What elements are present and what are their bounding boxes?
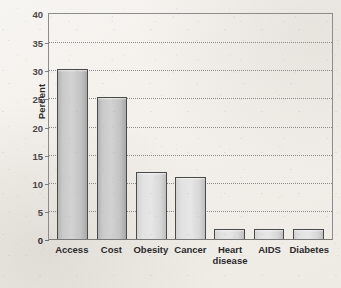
bar-cancer[interactable] [175, 177, 206, 239]
bar-diabetes[interactable] [293, 229, 324, 239]
y-tick-mark-35 [45, 43, 49, 44]
x-label-access: Access [52, 244, 92, 266]
x-label-diabetes: Diabetes [289, 244, 329, 266]
x-label-aids: AIDS [250, 244, 290, 266]
y-tick-label-15: 15 [32, 150, 43, 161]
x-label-line: AIDS [250, 244, 290, 255]
x-label-obesity: Obesity [131, 244, 171, 266]
y-tick-label-30: 30 [32, 66, 43, 77]
bar-slot [249, 14, 288, 239]
y-tick-mark-10 [45, 184, 49, 185]
plot-area: 4035302520151050 [48, 13, 333, 240]
y-tick-label-0: 0 [38, 235, 43, 246]
bar-aids[interactable] [254, 229, 285, 239]
gridline-0: 0 [49, 239, 332, 240]
x-label-cost: Cost [92, 244, 132, 266]
x-label-cancer: Cancer [171, 244, 211, 266]
bar-slot [171, 14, 210, 239]
bar-slot [92, 14, 131, 239]
bar-slot [210, 14, 249, 239]
y-tick-mark-20 [45, 128, 49, 129]
x-label-line: Obesity [131, 244, 171, 255]
y-tick-label-20: 20 [32, 122, 43, 133]
bar-slot [289, 14, 328, 239]
x-label-line: Cancer [171, 244, 211, 255]
x-axis-labels: AccessCostObesityCancerHeartdiseaseAIDSD… [49, 244, 332, 266]
y-tick-mark-0 [45, 240, 49, 241]
bars-group [50, 14, 331, 239]
y-tick-mark-15 [45, 156, 49, 157]
y-tick-label-25: 25 [32, 94, 43, 105]
y-tick-label-10: 10 [32, 178, 43, 189]
x-label-line: Access [52, 244, 92, 255]
bar-access[interactable] [57, 69, 88, 239]
x-label-line: Cost [92, 244, 132, 255]
bar-cost[interactable] [97, 97, 128, 239]
y-tick-label-40: 40 [32, 9, 43, 20]
y-tick-label-35: 35 [32, 38, 43, 49]
bar-heart-disease[interactable] [214, 229, 245, 239]
x-label-line: Diabetes [289, 244, 329, 255]
bar-slot [132, 14, 171, 239]
bar-chart-figure: Percent 4035302520151050 AccessCostObesi… [0, 0, 341, 288]
y-tick-label-5: 5 [38, 206, 43, 217]
bar-obesity[interactable] [136, 172, 167, 239]
y-tick-mark-25 [45, 99, 49, 100]
x-label-heart-disease: Heartdisease [210, 244, 250, 266]
x-label-line: disease [210, 255, 250, 266]
y-tick-mark-30 [45, 71, 49, 72]
x-label-line: Heart [210, 244, 250, 255]
y-tick-mark-5 [45, 212, 49, 213]
bar-slot [53, 14, 92, 239]
